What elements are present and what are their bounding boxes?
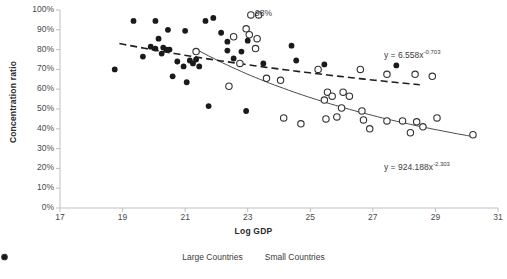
data-point-large-country[interactable]: [338, 105, 344, 111]
data-point-large-country[interactable]: [420, 124, 426, 130]
data-point-small-country[interactable]: [260, 61, 266, 67]
data-point-small-country[interactable]: [153, 46, 159, 52]
data-point-small-country[interactable]: [393, 63, 399, 69]
data-point-large-country[interactable]: [248, 12, 254, 18]
data-point-large-country[interactable]: [226, 83, 232, 89]
data-point-large-country[interactable]: [360, 117, 366, 123]
data-point-small-country[interactable]: [182, 28, 188, 34]
legend-label: Large Countries: [182, 252, 242, 262]
data-point-small-country[interactable]: [181, 64, 187, 70]
data-point-small-country[interactable]: [167, 47, 173, 53]
data-point-large-country[interactable]: [277, 77, 283, 83]
data-point-large-country[interactable]: [321, 97, 327, 103]
data-point-small-country[interactable]: [203, 18, 209, 24]
trendline-equation-large-countries: y = 924.188x-2.303: [384, 161, 450, 172]
data-point-small-country[interactable]: [293, 58, 299, 64]
annotation-98-percent: 98%: [255, 8, 272, 18]
legend-label: Small Countries: [265, 252, 325, 262]
scatter-chart: Concentration ratio Log GDP 0%10%20%30%4…: [0, 0, 507, 279]
data-point-large-country[interactable]: [315, 66, 321, 72]
data-point-large-country[interactable]: [323, 116, 329, 122]
data-point-large-country[interactable]: [384, 118, 390, 124]
data-point-small-country[interactable]: [196, 64, 202, 70]
data-point-small-country[interactable]: [218, 30, 224, 36]
data-point-large-country[interactable]: [230, 34, 236, 40]
data-point-large-country[interactable]: [237, 60, 243, 66]
data-point-large-country[interactable]: [340, 89, 346, 95]
data-point-small-country[interactable]: [190, 61, 196, 67]
data-point-large-country[interactable]: [413, 119, 419, 125]
data-point-small-country[interactable]: [140, 54, 146, 60]
data-point-large-country[interactable]: [407, 130, 413, 136]
data-point-small-country[interactable]: [210, 15, 216, 21]
data-point-small-country[interactable]: [243, 108, 249, 114]
data-point-large-country[interactable]: [399, 118, 405, 124]
equation-exponent: -0.703: [423, 49, 440, 55]
data-point-small-country[interactable]: [321, 62, 327, 68]
trendline-equation-small-countries: y = 6.558x-0.703: [384, 49, 440, 60]
data-point-small-country[interactable]: [224, 39, 230, 45]
filled-circle-icon: [0, 252, 9, 261]
data-point-large-country[interactable]: [252, 45, 258, 51]
data-point-large-country[interactable]: [243, 26, 249, 32]
data-point-large-country[interactable]: [193, 48, 199, 54]
equation-exponent: -2.303: [433, 161, 450, 167]
equation-prefix: y = 924.188x: [384, 162, 433, 172]
data-point-large-country[interactable]: [429, 73, 435, 79]
data-point-small-country[interactable]: [156, 36, 162, 42]
data-point-small-country[interactable]: [245, 38, 251, 44]
data-point-large-country[interactable]: [329, 93, 335, 99]
data-point-large-country[interactable]: [384, 71, 390, 77]
data-point-small-country[interactable]: [165, 27, 171, 33]
legend-item-small-countries: Small Countries: [265, 252, 325, 262]
data-point-small-country[interactable]: [174, 59, 180, 65]
data-point-large-country[interactable]: [254, 36, 260, 42]
data-point-large-country[interactable]: [357, 66, 363, 72]
data-point-large-country[interactable]: [412, 71, 418, 77]
legend-item-large-countries: Large Countries: [182, 252, 242, 262]
data-point-small-country[interactable]: [159, 51, 165, 57]
data-point-small-country[interactable]: [289, 43, 295, 49]
data-point-large-country[interactable]: [346, 93, 352, 99]
data-point-large-country[interactable]: [470, 132, 476, 138]
data-point-large-country[interactable]: [359, 108, 365, 114]
data-point-large-country[interactable]: [280, 115, 286, 121]
data-point-small-country[interactable]: [184, 79, 190, 85]
data-point-small-country[interactable]: [170, 73, 176, 79]
plot-area: [0, 0, 507, 279]
data-point-large-country[interactable]: [298, 121, 304, 127]
data-point-large-country[interactable]: [434, 115, 440, 121]
chart-legend: Large Countries Small Countries: [0, 252, 507, 262]
data-point-small-country[interactable]: [206, 103, 212, 109]
equation-prefix: y = 6.558x: [384, 50, 423, 60]
data-point-large-country[interactable]: [246, 32, 252, 38]
data-point-small-country[interactable]: [112, 67, 118, 73]
data-point-small-country[interactable]: [153, 18, 159, 24]
data-point-small-country[interactable]: [239, 49, 245, 55]
data-point-small-country[interactable]: [231, 56, 237, 62]
data-point-large-country[interactable]: [334, 114, 340, 120]
data-point-small-country[interactable]: [224, 48, 230, 54]
data-point-large-country[interactable]: [367, 126, 373, 132]
data-point-small-country[interactable]: [131, 18, 137, 24]
data-point-large-country[interactable]: [263, 75, 269, 81]
